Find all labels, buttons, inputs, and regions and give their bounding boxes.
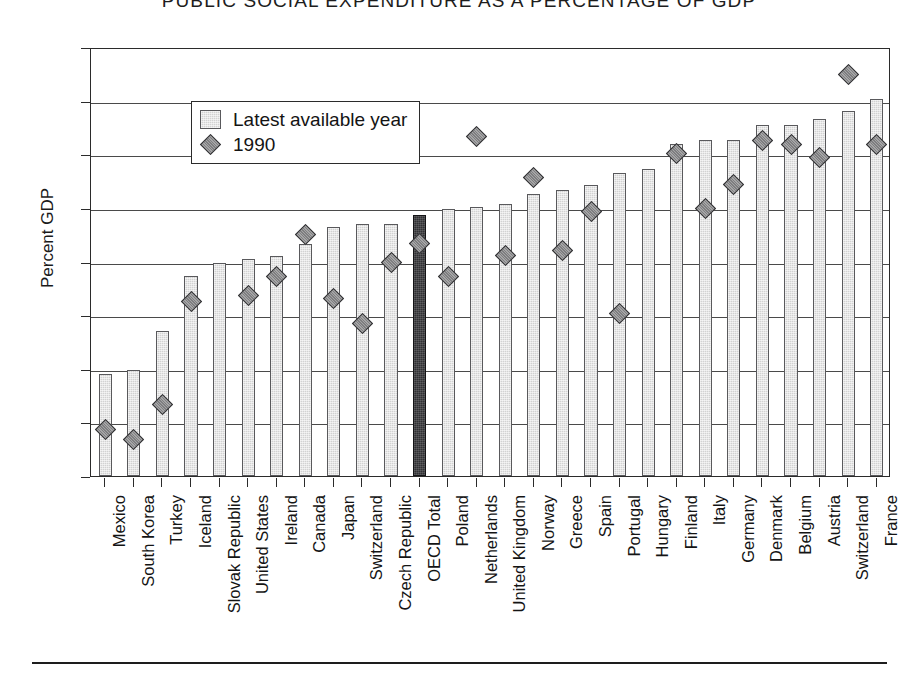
x-tick-mark <box>276 478 277 487</box>
x-tick-mark <box>419 478 420 487</box>
bar <box>527 194 540 476</box>
x-tick-mark <box>447 478 448 487</box>
bar <box>642 169 655 476</box>
x-tick-label: Japan <box>339 495 358 540</box>
footer-rule <box>32 662 887 664</box>
data-point-marker <box>295 223 316 244</box>
bar <box>556 190 569 476</box>
legend-label-1990: 1990 <box>233 134 275 156</box>
x-tick-mark <box>761 478 762 487</box>
x-tick-label: Turkey <box>167 495 186 545</box>
data-point-marker <box>838 64 859 85</box>
x-tick-label: Ireland <box>282 495 301 545</box>
x-tick-label: Spain <box>596 495 615 537</box>
x-tick-mark <box>133 478 134 487</box>
y-tick-mark <box>81 155 90 156</box>
x-tick-label: Slovak Republic <box>225 495 244 613</box>
x-tick-mark <box>676 478 677 487</box>
x-tick-mark <box>704 478 705 487</box>
x-tick-label: Canada <box>310 495 329 553</box>
y-tick-mark <box>81 102 90 103</box>
legend-label-latest: Latest available year <box>233 109 407 131</box>
bar <box>613 173 626 476</box>
x-tick-label: Switzerland <box>367 495 386 580</box>
bar <box>756 125 769 476</box>
x-tick-mark <box>333 478 334 487</box>
chart-title: PUBLIC SOCIAL EXPENDITURE AS A PERCENTAG… <box>0 0 918 12</box>
legend-square-swatch-icon <box>200 110 221 129</box>
x-tick-label: Switzerland <box>853 495 872 580</box>
x-tick-label: Czech Republic <box>396 495 415 611</box>
y-tick-mark <box>81 423 90 424</box>
x-tick-label: Germany <box>739 495 758 563</box>
x-tick-mark <box>876 478 877 487</box>
y-tick-mark <box>81 209 90 210</box>
bar <box>270 256 283 476</box>
diamond-icon <box>200 134 221 155</box>
bar <box>584 185 597 476</box>
x-tick-label: Portugal <box>625 495 644 556</box>
legend-diamond-swatch-icon <box>200 135 221 154</box>
bar <box>699 140 712 476</box>
x-tick-label: South Korea <box>139 495 158 587</box>
x-tick-label: France <box>882 495 901 546</box>
y-tick-mark <box>81 263 90 264</box>
x-tick-label: United Kingdom <box>510 495 529 612</box>
bar <box>442 209 455 476</box>
gridline <box>91 210 889 211</box>
x-tick-mark <box>190 478 191 487</box>
gridline <box>91 371 889 372</box>
x-tick-label: Netherlands <box>482 495 501 584</box>
bar <box>784 125 797 476</box>
x-tick-label: Greece <box>567 495 586 549</box>
x-tick-mark <box>304 478 305 487</box>
gridline <box>91 317 889 318</box>
bar <box>842 111 855 476</box>
x-tick-label: Italy <box>710 495 729 525</box>
x-tick-mark <box>219 478 220 487</box>
x-tick-mark <box>533 478 534 487</box>
x-tick-label: United States <box>253 495 272 594</box>
x-tick-label: Poland <box>453 495 472 546</box>
x-tick-mark <box>504 478 505 487</box>
x-tick-label: Hungary <box>653 495 672 557</box>
x-tick-mark <box>361 478 362 487</box>
legend-item-latest: Latest available year <box>200 107 407 132</box>
x-tick-mark <box>819 478 820 487</box>
bar <box>470 207 483 476</box>
x-tick-label: Iceland <box>196 495 215 548</box>
y-tick-mark <box>81 477 90 478</box>
chart-legend: Latest available year 1990 <box>191 101 420 164</box>
x-tick-mark <box>104 478 105 487</box>
bar <box>870 99 883 476</box>
y-tick-mark <box>81 316 90 317</box>
gridline <box>91 264 889 265</box>
y-tick-mark <box>81 370 90 371</box>
bar <box>327 227 340 476</box>
y-tick-mark <box>81 48 90 49</box>
x-tick-mark <box>590 478 591 487</box>
data-point-marker <box>466 126 487 147</box>
x-tick-label: Denmark <box>767 495 786 562</box>
bar <box>670 144 683 476</box>
chart-figure: PUBLIC SOCIAL EXPENDITURE AS A PERCENTAG… <box>0 0 918 693</box>
x-tick-mark <box>561 478 562 487</box>
x-tick-mark <box>790 478 791 487</box>
legend-item-1990: 1990 <box>200 132 407 157</box>
x-tick-label: Belgium <box>796 495 815 555</box>
plot-area: Latest available year 1990 <box>90 48 890 477</box>
x-tick-mark <box>847 478 848 487</box>
bar <box>213 263 226 476</box>
x-tick-mark <box>647 478 648 487</box>
gridline <box>91 424 889 425</box>
x-tick-mark <box>247 478 248 487</box>
bar <box>127 370 140 476</box>
bar <box>356 224 369 476</box>
x-tick-mark <box>390 478 391 487</box>
x-tick-mark <box>476 478 477 487</box>
x-tick-label: Austria <box>825 495 844 546</box>
bar <box>299 244 312 476</box>
y-axis-title: Percent GDP <box>38 143 58 333</box>
x-tick-label: OECD Total <box>425 495 444 582</box>
data-point-marker <box>523 167 544 188</box>
